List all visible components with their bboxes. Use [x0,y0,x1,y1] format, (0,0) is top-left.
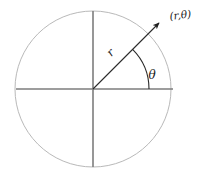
polar-diagram-canvas: r θ (r,θ) [0,0,197,170]
polar-coordinate-figure: r θ (r,θ) [0,0,197,170]
point-label: (r,θ) [169,7,192,22]
angle-arc [133,49,149,89]
angle-label: θ [148,68,156,82]
radius-label: r [104,46,118,59]
